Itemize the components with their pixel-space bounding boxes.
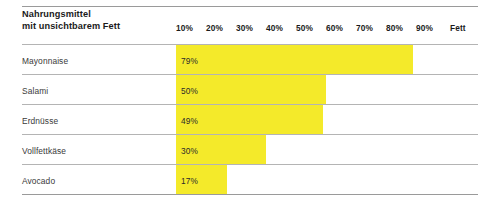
rule-row-3 bbox=[22, 134, 478, 135]
row-label-mayonnaise: Mayonnaise bbox=[22, 56, 68, 66]
axis-tick-60: 60% bbox=[326, 23, 343, 33]
axis-tick-20: 20% bbox=[206, 23, 223, 33]
value-label-vollfettkaese: 30% bbox=[181, 146, 198, 156]
bar-mayonnaise[interactable] bbox=[176, 45, 413, 75]
axis-tick-50: 50% bbox=[296, 23, 313, 33]
value-label-avocado: 17% bbox=[181, 176, 198, 186]
axis-unit-label: Fett bbox=[450, 23, 466, 33]
x-axis-labels: 10% 20% 30% 40% 50% 60% 70% 80% 90% Fett bbox=[0, 23, 489, 35]
rule-top bbox=[22, 6, 478, 7]
value-label-erdnuesse: 49% bbox=[181, 116, 198, 126]
rule-row-2 bbox=[22, 104, 478, 105]
bar-salami[interactable] bbox=[176, 75, 326, 105]
axis-tick-30: 30% bbox=[236, 23, 253, 33]
axis-tick-90: 90% bbox=[416, 23, 433, 33]
axis-tick-40: 40% bbox=[266, 23, 283, 33]
fat-content-bar-chart: Nahrungsmittel mit unsichtbarem Fett 10%… bbox=[0, 0, 489, 216]
rule-row-1 bbox=[22, 74, 478, 75]
row-label-avocado: Avocado bbox=[22, 176, 55, 186]
value-label-mayonnaise: 79% bbox=[181, 56, 198, 66]
axis-tick-10: 10% bbox=[176, 23, 193, 33]
chart-title-line-1: Nahrungsmittel bbox=[22, 9, 91, 19]
rule-bottom bbox=[22, 194, 478, 195]
row-label-vollfettkaese: Vollfettkäse bbox=[22, 146, 66, 156]
axis-tick-80: 80% bbox=[386, 23, 403, 33]
rule-row-4 bbox=[22, 164, 478, 165]
bar-erdnuesse[interactable] bbox=[176, 105, 323, 135]
row-label-salami: Salami bbox=[22, 86, 48, 96]
axis-tick-70: 70% bbox=[356, 23, 373, 33]
value-label-salami: 50% bbox=[181, 86, 198, 96]
row-label-erdnuesse: Erdnüsse bbox=[22, 116, 58, 126]
